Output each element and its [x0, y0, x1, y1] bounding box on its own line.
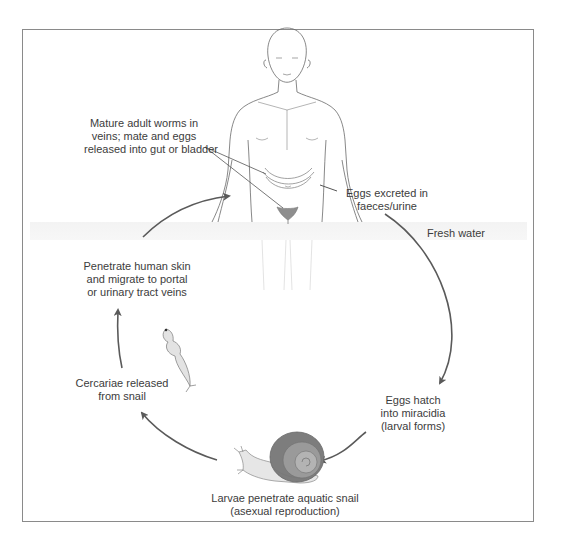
arrow-to-snail [320, 432, 366, 461]
eggs-excreted-pointer [320, 185, 337, 191]
adult-worms-pointer-lines [205, 147, 283, 208]
label-eggs-hatch: Eggs hatch into miracidia (larval forms) [368, 394, 458, 433]
label-penetrate-skin: Penetrate human skin and migrate to port… [82, 260, 192, 299]
arrow-to-skin [118, 310, 122, 368]
label-cercariae: Cercariae released from snail [72, 377, 172, 403]
intestine-icon [263, 168, 314, 188]
label-adult-worms: Mature adult worms in veins; mate and eg… [84, 117, 204, 156]
label-fresh-water: Fresh water [421, 227, 491, 240]
arrow-to-human [143, 196, 229, 237]
arrow-from-snail [142, 413, 217, 460]
snail-icon [234, 432, 324, 483]
bladder-icon [277, 207, 298, 224]
label-eggs-excreted: Eggs excreted in faeces/urine [337, 187, 437, 213]
label-snail: Larvae penetrate aquatic snail (asexual … [205, 492, 365, 518]
human-body-icon [212, 28, 362, 290]
